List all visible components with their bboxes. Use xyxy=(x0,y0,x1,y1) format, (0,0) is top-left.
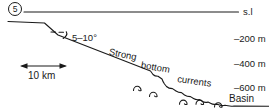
current-scour-icon xyxy=(134,86,142,90)
slope-cross-section-diagram: 5 s.l –200 m –400 m –600 m 5–10° Strong … xyxy=(0,0,269,112)
scale-bar-left-arrowhead-icon xyxy=(20,63,28,68)
depth-label-400: –400 m xyxy=(234,59,266,69)
bottom-current-symbols xyxy=(134,86,223,107)
figure-number-badge: 5 xyxy=(8,2,22,16)
slope-angle-label: 5–10° xyxy=(72,33,97,43)
scale-bar-label: 10 km xyxy=(28,71,55,81)
current-scour-icon xyxy=(196,100,204,104)
current-scour-icon xyxy=(180,100,188,104)
current-scour-icon xyxy=(150,92,158,96)
basin-label: Basin xyxy=(229,94,254,104)
depth-label-200: –200 m xyxy=(234,34,266,44)
sea-level-label: s.l xyxy=(243,7,253,17)
figure-number: 5 xyxy=(13,4,18,14)
depth-label-600: –600 m xyxy=(234,83,266,93)
scale-bar-right-arrowhead-icon xyxy=(60,63,68,68)
